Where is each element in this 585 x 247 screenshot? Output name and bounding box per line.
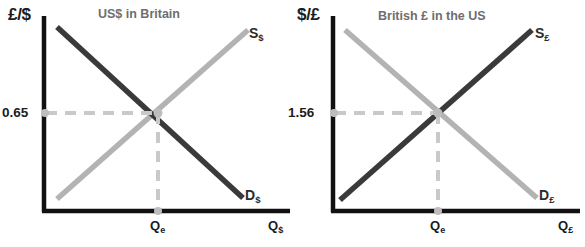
supply-curve-label-subscript: £ [544, 32, 549, 43]
quantity-axis-marker [434, 207, 442, 215]
demand-curve-label-subscript: £ [549, 194, 554, 205]
x-axis-label-text: Q [558, 218, 568, 233]
equilibrium-price-label: 0.65 [2, 106, 28, 120]
demand-curve-label: D£ [539, 188, 554, 202]
y-axis-label: £/$ [8, 6, 31, 23]
supply-curve-label: S$ [249, 26, 264, 40]
demand-curve-label: D$ [245, 188, 260, 202]
y-axis-label: $/£ [297, 6, 320, 23]
chart-title: US$ in Britain [98, 8, 180, 21]
chart-panel-british-pound-in-the-us: $/£ British £ in the US 1.56 S£ D£ Qe Q£ [292, 0, 584, 247]
price-axis-marker [330, 109, 338, 117]
supply-curve-label-text: S [249, 25, 258, 41]
supply-curve-label: S£ [535, 26, 550, 40]
equilibrium-quantity-subscript: e [160, 225, 165, 235]
supply-curve-label-text: S [535, 25, 544, 41]
equilibrium-quantity-text: Q [430, 218, 440, 233]
demand-curve-label-text: D [539, 187, 549, 203]
price-axis-marker [41, 109, 49, 117]
chart-title: British £ in the US [378, 10, 486, 23]
x-axis-label: Q$ [268, 219, 283, 232]
x-axis-label-subscript: $ [278, 225, 283, 235]
equilibrium-quantity-subscript: e [440, 225, 445, 235]
chart-panel-us-dollar-in-britain: £/$ US$ in Britain 0.65 S$ D$ Qe Q$ [0, 0, 292, 247]
demand-curve-label-subscript: $ [255, 194, 260, 205]
equilibrium-quantity-label: Qe [430, 219, 445, 232]
equilibrium-quantity-label: Qe [150, 219, 165, 232]
equilibrium-quantity-text: Q [150, 218, 160, 233]
demand-curve-label-text: D [245, 187, 255, 203]
x-axis-label-subscript: £ [568, 225, 573, 235]
equilibrium-price-label: 1.56 [288, 106, 314, 120]
supply-curve-label-subscript: $ [258, 32, 263, 43]
quantity-axis-marker [154, 207, 162, 215]
x-axis-label: Q£ [558, 219, 573, 232]
x-axis-label-text: Q [268, 218, 278, 233]
equilibrium-point-marker [434, 109, 443, 118]
equilibrium-point-marker [154, 109, 163, 118]
exchange-rate-figure: £/$ US$ in Britain 0.65 S$ D$ Qe Q$ [0, 0, 585, 247]
